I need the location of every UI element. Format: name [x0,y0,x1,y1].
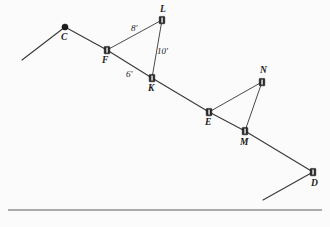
point-label-k: K [148,84,154,94]
node-marker-n [259,78,265,85]
dimension-label-lk: 10' [157,47,168,56]
node-marker-c [62,24,68,30]
segment-start-to-c [22,27,65,60]
segment-n-to-m [245,82,262,131]
point-label-e: E [205,118,211,128]
point-label-d: D [311,179,318,189]
segment-e-to-m [209,112,245,131]
segment-d-to-lower-left [263,172,313,200]
node-marker-l [159,16,165,23]
segment-e-to-n [209,82,262,112]
figure-canvas [0,0,330,227]
point-label-c: C [61,33,67,43]
node-marker-d [310,168,316,175]
node-marker-k [149,74,155,81]
point-label-l: L [160,5,166,15]
segment-k-to-e [152,78,209,112]
segment-m-to-d [245,131,313,172]
point-label-m: M [240,138,248,148]
node-marker-m [242,127,248,134]
node-marker-e [206,108,212,115]
segment-c-to-f [65,27,107,50]
geometry-figure: C F L K E N M D 8' 10' 6' [0,0,330,227]
point-label-f: F [102,56,108,66]
point-label-n: N [260,66,267,76]
dimension-label-fk: 6' [126,70,132,79]
dimension-label-fl: 8' [131,24,137,33]
node-marker-f [104,46,110,53]
